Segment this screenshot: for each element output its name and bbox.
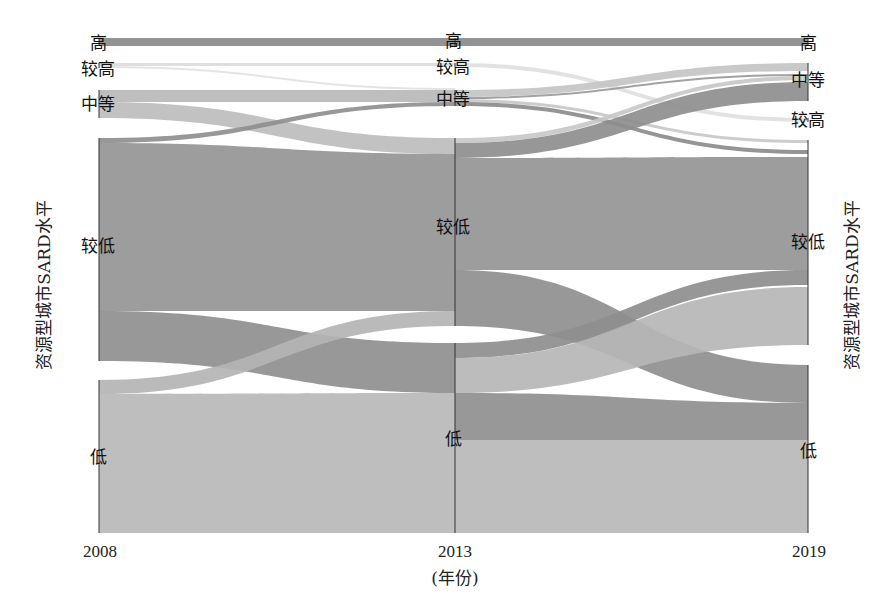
- x-axis-ticks: 200820132019: [83, 542, 826, 561]
- y-axis-title-left: 资源型城市SARD水平: [34, 200, 54, 369]
- node-label: 较高: [791, 110, 825, 130]
- flow-band: [99, 393, 455, 533]
- flow-band: [99, 63, 455, 66]
- flow-band: [99, 90, 455, 102]
- node-label: 较低: [81, 236, 115, 256]
- flow-band: [99, 66, 455, 90]
- node-label: 较低: [436, 217, 470, 237]
- x-tick-label: 2013: [438, 542, 472, 561]
- flow-layer: [99, 38, 808, 533]
- alluvial-chart: 高较高中等较低低高较高中等较低低高中等较高较低低 200820132019 (年…: [0, 0, 891, 616]
- node-label: 低: [90, 447, 107, 467]
- node-label: 低: [445, 429, 462, 449]
- node-label: 高: [90, 33, 107, 53]
- node-label: 较高: [436, 57, 470, 77]
- node-label: 中等: [791, 70, 825, 90]
- node-label: 中等: [436, 89, 470, 109]
- flow-band: [99, 38, 455, 46]
- node-label: 高: [445, 31, 462, 51]
- flow-band: [455, 440, 808, 533]
- flow-band: [99, 143, 455, 311]
- node-label: 中等: [81, 94, 115, 114]
- node-label: 低: [800, 441, 817, 461]
- x-tick-label: 2019: [792, 542, 826, 561]
- flow-band: [455, 157, 808, 270]
- node-label: 较低: [791, 232, 825, 252]
- x-axis-title: (年份): [431, 568, 478, 588]
- x-tick-label: 2008: [83, 542, 117, 561]
- y-axis-title-right: 资源型城市SARD水平: [842, 200, 862, 369]
- node-label: 高: [800, 33, 817, 53]
- node-label: 较高: [81, 59, 115, 79]
- flow-band: [455, 38, 808, 46]
